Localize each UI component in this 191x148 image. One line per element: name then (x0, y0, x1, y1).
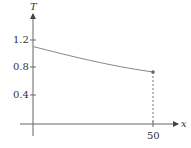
y-tick-label: 0.8 (13, 61, 29, 72)
y-tick-label: 0.4 (13, 89, 29, 100)
x-tick-label: 50 (147, 130, 160, 141)
endpoint-marker (151, 70, 155, 74)
x-axis-label: x (181, 118, 187, 129)
chart: T x 1.2 0.8 0.4 50 (0, 0, 191, 148)
y-axis-label: T (30, 1, 38, 12)
data-curve (33, 47, 153, 73)
y-tick-label: 1.2 (13, 34, 29, 45)
